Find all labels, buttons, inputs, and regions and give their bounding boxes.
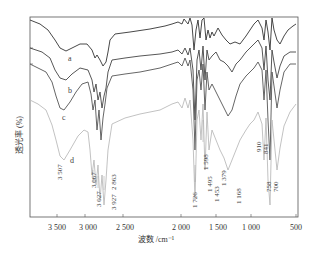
peak-label-1726: 1 726 [191, 192, 199, 208]
peak-label-1379: 1 379 [220, 170, 228, 186]
peak-label-1168: 1 168 [235, 188, 243, 204]
curve-label-b: b [68, 86, 72, 95]
peak-label-3027: 3 027 [95, 191, 103, 207]
curve-label-d: d [70, 156, 74, 165]
x-tick-1000: 1 000 [242, 223, 260, 232]
y-axis-ticks [30, 48, 33, 64]
x-tick-2500: 2 500 [116, 223, 134, 232]
peak-label-1598: 1 598 [202, 154, 210, 170]
curve-label-c: c [62, 113, 66, 122]
peak-label-2927: 3 927 [110, 194, 118, 210]
y-axis-title: 透光率 (%) [14, 116, 24, 154]
x-tick-1500: 1 500 [209, 223, 227, 232]
plot-frame [30, 17, 298, 217]
x-tick-3500: 3 500 [48, 223, 66, 232]
peak-label-1453: 1 453 [213, 186, 221, 202]
x-axis-title: 波数 /cm⁻¹ [138, 234, 175, 244]
peak-label-3507: 3 507 [56, 164, 64, 180]
peak-label-700: 700 [272, 181, 280, 192]
x-tick-3000: 3 000 [79, 223, 97, 232]
peak-label-2863: 2 863 [110, 174, 118, 190]
x-tick-500: 500 [290, 223, 302, 232]
peak-label-841: 841 [262, 143, 270, 154]
curve-label-a: a [68, 54, 72, 63]
x-tick-2000: 2 000 [172, 223, 190, 232]
ir-spectra-chart: a b c d 3 507 3 067 3 027 3 927 2 863 1 … [0, 0, 312, 254]
peak-label-3067: 3 067 [90, 172, 98, 188]
x-axis-ticks [57, 214, 296, 217]
